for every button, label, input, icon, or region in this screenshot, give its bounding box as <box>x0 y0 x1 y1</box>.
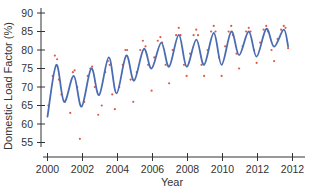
data-point <box>111 93 113 95</box>
data-point <box>221 75 223 77</box>
chart: 5560657075808590 20002002200420062008201… <box>0 0 313 190</box>
data-point <box>238 67 240 69</box>
data-point <box>273 60 275 62</box>
y-tick-label: 55 <box>21 136 33 148</box>
data-point <box>230 25 232 27</box>
x-tick-label: 2012 <box>281 163 305 175</box>
data-point <box>157 40 159 42</box>
data-point <box>193 34 195 36</box>
data-point <box>132 101 134 103</box>
x-tick-label: 2008 <box>176 163 200 175</box>
data-point <box>256 62 258 64</box>
fitted-curve <box>48 29 289 117</box>
data-point <box>168 82 170 84</box>
data-point <box>159 36 161 38</box>
x-axis-title: Year <box>161 176 184 188</box>
data-point <box>284 27 286 29</box>
data-point <box>72 71 74 73</box>
x-axis: 20002002200420062008201020122012 <box>36 153 305 175</box>
data-point <box>175 34 177 36</box>
data-point <box>280 29 282 31</box>
data-point <box>248 27 250 29</box>
x-tick-label: 2004 <box>106 163 130 175</box>
data-point <box>130 79 132 81</box>
data-point <box>126 49 128 51</box>
x-tick-label: 2006 <box>141 163 165 175</box>
data-point <box>178 27 180 29</box>
y-tick-label: 85 <box>21 25 33 37</box>
data-point <box>114 108 116 110</box>
data-point <box>210 30 212 32</box>
data-point <box>228 30 230 32</box>
x-tick-label: 2010 <box>211 163 235 175</box>
data-point <box>144 45 146 47</box>
data-point <box>186 75 188 77</box>
data-point <box>142 40 144 42</box>
data-point <box>213 25 215 27</box>
data-point <box>74 69 76 71</box>
data-point <box>245 30 247 32</box>
data-point <box>139 49 141 51</box>
data-point <box>265 25 267 27</box>
data-point <box>56 58 58 60</box>
y-axis-title: Domestic Load Factor (%) <box>2 22 14 150</box>
y-tick-label: 80 <box>21 44 33 56</box>
data-point <box>283 25 285 27</box>
data-point <box>203 75 205 77</box>
data-point <box>54 54 56 56</box>
data-point <box>270 49 272 51</box>
y-tick-label: 65 <box>21 99 33 111</box>
data-point <box>97 114 99 116</box>
y-axis: 5560657075808590 <box>21 7 45 149</box>
data-point <box>79 138 81 140</box>
data-point <box>151 90 153 92</box>
data-point <box>91 66 93 68</box>
y-tick-label: 75 <box>21 62 33 74</box>
data-point <box>197 34 199 36</box>
y-tick-label: 70 <box>21 81 33 93</box>
x-tick-label: 2012 <box>246 163 270 175</box>
data-point <box>69 112 71 114</box>
data-point <box>195 29 197 31</box>
x-tick-label: 2002 <box>71 163 95 175</box>
data-point <box>214 30 216 32</box>
data-point <box>101 104 103 106</box>
x-tick-label: 2000 <box>36 163 60 175</box>
data-point <box>287 47 289 49</box>
y-tick-label: 90 <box>21 7 33 19</box>
y-tick-label: 60 <box>21 118 33 130</box>
